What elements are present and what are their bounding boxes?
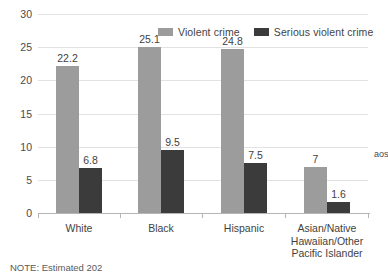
y-tick-label: 25 [8,41,32,53]
bar-value-label: 1.6 [331,188,346,200]
x-axis-tick [202,213,203,218]
bar-column[interactable]: 1.6 [327,14,350,213]
y-tick-label: 10 [8,141,32,153]
bar-group: 24.87.5 [221,14,267,213]
bar[interactable] [244,163,267,213]
bar[interactable] [79,168,102,213]
x-axis-baseline [38,213,370,214]
bar-column[interactable]: 9.5 [161,14,184,213]
bar-value-label: 24.8 [222,35,242,47]
bar-column[interactable]: 7.5 [244,14,267,213]
bar[interactable] [56,66,79,213]
bar-value-label: 6.8 [83,154,98,166]
y-tick-label: 20 [8,74,32,86]
bar-group: 22.26.8 [56,14,102,213]
y-tick-label: 30 [8,8,32,20]
category-label-line: Pacific Islander [272,247,382,260]
x-axis-tick [120,213,121,218]
bar-value-label: 22.2 [57,52,77,64]
y-tick-label: 5 [8,174,32,186]
y-tick-label: 15 [8,108,32,120]
category-label-line: Hawaiian/Other [272,235,382,248]
bar-column[interactable]: 24.8 [221,14,244,213]
y-tick-label: 0 [8,207,32,219]
bar[interactable] [161,150,184,213]
x-axis-tick [368,213,369,218]
bar-value-label: 7 [313,153,319,165]
chart-footnote: NOTE: Estimated 202 [10,262,102,272]
bar[interactable] [138,47,161,213]
bar-column[interactable]: 7 [304,14,327,213]
bar-column[interactable]: 22.2 [56,14,79,213]
bar-group: 71.6 [304,14,350,213]
bar-value-label: 25.1 [139,33,159,45]
y-axis: 30 25 20 15 10 5 0 [6,14,32,213]
x-axis-tick [285,213,286,218]
category-label-line: Asian/Native [272,222,382,235]
bar-group: 25.19.5 [138,14,184,213]
bar[interactable] [221,49,244,214]
bar[interactable] [327,202,350,213]
bar-value-label: 9.5 [165,136,180,148]
bar-column[interactable]: 6.8 [79,14,102,213]
bar-chart-figure: Violent crime Serious violent crime 30 2… [0,0,388,272]
bar-column[interactable]: 25.1 [138,14,161,213]
bar-value-label: 7.5 [248,149,263,161]
plot-area: 22.26.825.19.524.87.571.6 [38,14,368,213]
bar[interactable] [304,167,327,213]
clipped-side-text: aosvbD [374,148,388,161]
x-axis-tick [38,213,39,218]
x-axis-category-label: Asian/NativeHawaiian/OtherPacific Island… [272,222,382,260]
